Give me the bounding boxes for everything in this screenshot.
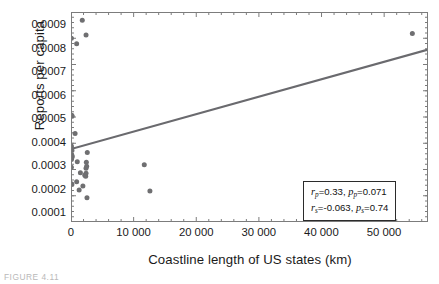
x-tick-label: 0 xyxy=(68,226,74,238)
data-point xyxy=(410,31,415,36)
spearman-p-value: =0.74 xyxy=(364,202,388,213)
y-axis-tick-labels: 0.0001 0.0002 0.0003 0.0004 0.0005 0.000… xyxy=(6,0,66,284)
spearman-stats-row: rs=-0.063, ps=0.74 xyxy=(311,201,388,217)
data-point xyxy=(78,170,83,175)
pearson-p-subscript: p xyxy=(353,191,357,199)
x-tick-label: 50 000 xyxy=(367,226,402,238)
spearman-p-subscript: s xyxy=(361,207,364,215)
data-point xyxy=(77,187,82,192)
pearson-r-value: =0.33, xyxy=(319,186,346,197)
figure-container: Reports per capita 0.0001 0.0002 0.0003 … xyxy=(0,0,439,284)
data-point xyxy=(71,165,74,170)
y-tick-label: 0.0005 xyxy=(10,112,66,124)
data-point xyxy=(147,189,152,194)
data-point xyxy=(74,179,79,184)
y-tick-label: 0.0008 xyxy=(10,42,66,54)
data-point xyxy=(75,159,80,164)
trend-line xyxy=(71,50,428,149)
data-point xyxy=(84,166,89,171)
data-point xyxy=(71,182,74,187)
data-point xyxy=(73,131,78,136)
x-tick-label: 10 000 xyxy=(116,226,151,238)
x-tick-label: 30 000 xyxy=(242,226,277,238)
y-tick-label: 0.0009 xyxy=(10,18,66,30)
spearman-r-subscript: s xyxy=(315,207,318,215)
figure-caption: FIGURE 4.11 xyxy=(4,272,59,281)
pearson-p-value: =0.071 xyxy=(357,186,387,197)
data-point xyxy=(80,184,85,189)
y-tick-label: 0.0007 xyxy=(10,65,66,77)
data-point xyxy=(142,162,147,167)
data-point xyxy=(74,41,79,46)
data-point xyxy=(84,195,89,200)
y-tick-label: 0.0004 xyxy=(10,136,66,148)
y-tick-label: 0.0001 xyxy=(10,206,66,218)
data-point xyxy=(71,36,74,41)
x-tick-label: 40 000 xyxy=(304,226,339,238)
data-points-group xyxy=(71,18,415,201)
data-point xyxy=(83,174,88,179)
y-tick-label: 0.0006 xyxy=(10,89,66,101)
y-tick-label: 0.0003 xyxy=(10,159,66,171)
statistics-annotation-box: rp=0.33, pp=0.071 rs=-0.063, ps=0.74 xyxy=(303,181,396,221)
y-tick-label: 0.0002 xyxy=(10,183,66,195)
data-point xyxy=(85,150,90,155)
data-point xyxy=(84,33,89,38)
pearson-stats-row: rp=0.33, pp=0.071 xyxy=(311,185,388,201)
spearman-r-value: =-0.063, xyxy=(318,202,353,213)
data-point xyxy=(80,18,85,23)
pearson-r-subscript: p xyxy=(315,191,319,199)
x-axis-title: Coastline length of US states (km) xyxy=(71,252,429,267)
x-tick-label: 20 000 xyxy=(179,226,214,238)
